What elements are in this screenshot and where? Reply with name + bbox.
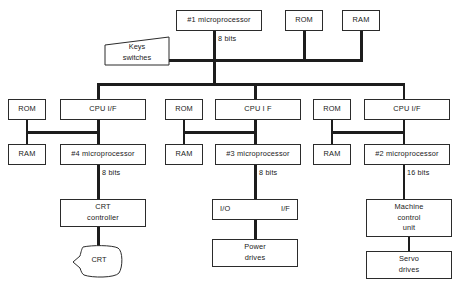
node-cpu2-label: #2 microprocessor <box>365 149 449 160</box>
wire-left-crossbar <box>26 131 100 134</box>
node-cpu-if-left-label: CPU I/F <box>61 104 145 115</box>
wire-mid-crossbar <box>183 131 257 134</box>
wire-cpu2-mcu <box>403 165 406 199</box>
wire-upper-bus <box>169 59 363 62</box>
node-servo-drives: Servo drives <box>366 251 452 279</box>
wire-cpu1-trunk <box>213 31 216 84</box>
node-rom-top: ROM <box>285 10 323 31</box>
wire-main-trunk <box>97 83 405 86</box>
node-power-drives: Power drives <box>212 239 298 267</box>
node-cpu1-label: #1 microprocessor <box>177 15 261 26</box>
node-rom-top-label: ROM <box>286 15 322 26</box>
node-crt-label: CRT <box>72 255 126 266</box>
wire-branch-right-drop <box>403 83 406 100</box>
node-rom-right: ROM <box>313 99 351 120</box>
node-cpu4-label: #4 microprocessor <box>61 149 145 160</box>
wire-ram-top-drop <box>360 31 363 61</box>
node-ram-top: RAM <box>342 10 380 31</box>
node-ram-left: RAM <box>8 144 46 165</box>
wire-crtcontroller-crt <box>97 227 100 247</box>
node-ram-right-label: RAM <box>314 149 350 160</box>
node-cpu3: #3 microprocessor <box>215 144 301 165</box>
node-cpu-if-right-label: CPU I/F <box>365 104 449 115</box>
node-cpu4: #4 microprocessor <box>60 144 146 165</box>
wire-rom-top-drop <box>303 31 306 61</box>
node-ram-mid-label: RAM <box>166 149 202 160</box>
node-cpu-if-mid-label: CPU I F <box>216 104 300 115</box>
bus-label-cpu4: 8 bits <box>102 168 120 177</box>
node-rom-mid: ROM <box>165 99 203 120</box>
node-cpu2: #2 microprocessor <box>364 144 450 165</box>
node-cpu-if-right: CPU I/F <box>364 99 450 120</box>
node-rom-mid-label: ROM <box>166 104 202 115</box>
wire-branch-mid-drop <box>254 83 257 100</box>
wire-io-powerdrives <box>254 220 257 239</box>
node-keys-switches-label: Keys switches <box>104 42 170 63</box>
node-io-label: I/O <box>220 204 230 215</box>
node-cpu3-label: #3 microprocessor <box>216 149 300 160</box>
bus-label-main: 8 bits <box>218 34 236 43</box>
node-ram-left-label: RAM <box>9 149 45 160</box>
node-crt-controller-label: CRT controller <box>61 202 145 223</box>
node-cpu-if-mid: CPU I F <box>215 99 301 120</box>
bus-label-cpu3: 8 bits <box>259 168 277 177</box>
bus-label-cpu2: 16 bits <box>407 168 430 177</box>
node-crt-controller: CRT controller <box>60 199 146 227</box>
node-cpu1: #1 microprocessor <box>176 10 262 31</box>
node-power-drives-label: Power drives <box>213 242 297 263</box>
node-if-label: I/F <box>281 204 290 215</box>
node-rom-left-label: ROM <box>9 104 45 115</box>
block-diagram-canvas: #1 microprocessor ROM RAM Keys switches … <box>0 0 462 290</box>
node-rom-right-label: ROM <box>314 104 350 115</box>
wire-branch-left-drop <box>97 83 100 100</box>
node-ram-right: RAM <box>313 144 351 165</box>
node-machine-control-unit-label: Machine control unit <box>367 202 451 234</box>
node-cpu-if-left: CPU I/F <box>60 99 146 120</box>
node-ram-top-label: RAM <box>343 15 379 26</box>
node-io-if: I/O I/F <box>212 199 298 220</box>
figure-caption <box>14 283 444 290</box>
node-machine-control-unit: Machine control unit <box>366 199 452 237</box>
wire-mcu-servodrives <box>408 237 411 251</box>
wire-cpu3-io <box>254 165 257 199</box>
wire-cpu4-crtcontroller <box>97 165 100 199</box>
node-ram-mid: RAM <box>165 144 203 165</box>
node-rom-left: ROM <box>8 99 46 120</box>
node-servo-drives-label: Servo drives <box>367 254 451 275</box>
wire-right-crossbar <box>331 131 405 134</box>
